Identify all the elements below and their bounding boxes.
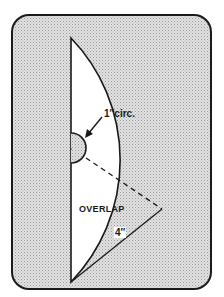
circ-label: 1″circ.	[104, 108, 135, 119]
overlap-label: OVERLAP	[79, 204, 125, 214]
center-dot	[70, 148, 72, 150]
diagram-canvas	[0, 0, 224, 297]
length-label: 4″	[114, 227, 126, 238]
